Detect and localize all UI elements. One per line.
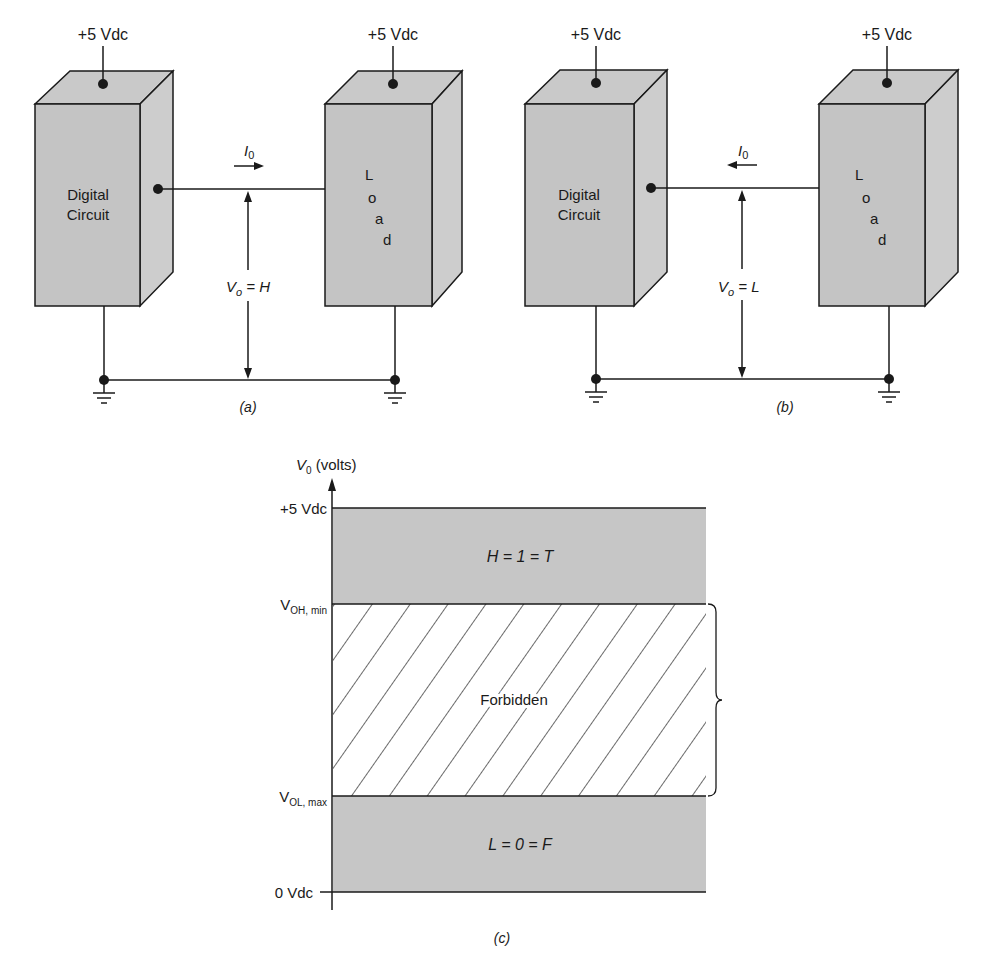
ground-symbol-icon: [93, 380, 115, 403]
supply-node-icon: [591, 78, 601, 88]
load-letter: L: [855, 166, 863, 183]
circuit-label-line2: Circuit: [67, 206, 110, 223]
panel-a-caption: (a): [239, 399, 256, 415]
circuit-label-line1: Digital: [558, 186, 600, 203]
forbidden-brace-icon: [708, 604, 722, 796]
supply-node-icon: [882, 78, 892, 88]
load-block: [325, 71, 462, 306]
ground-symbol-icon: [878, 379, 900, 402]
supply-node-icon: [388, 79, 398, 89]
axis-label: V0 (volts): [296, 456, 357, 476]
load-letter: o: [368, 189, 376, 206]
load-letter: d: [383, 231, 391, 248]
voltage-label: Vo = H: [226, 278, 270, 298]
level-top-label: +5 Vdc: [280, 500, 328, 517]
circuit-label-line2: Circuit: [558, 206, 601, 223]
panel-b-caption: (b): [776, 399, 793, 415]
panel-c-caption: (c): [494, 930, 510, 946]
circuit-label-line1: Digital: [67, 186, 109, 203]
supply-label: +5 Vdc: [571, 26, 621, 43]
ground-symbol-icon: [384, 380, 406, 403]
supply-label: +5 Vdc: [862, 26, 912, 43]
diagram-canvas: +5 Vdc +5 Vdc Digital Circuit L o a d I0…: [0, 0, 990, 966]
low-band-label: L = 0 = F: [488, 836, 553, 853]
level-vol-label: VOL, max: [279, 788, 327, 808]
ground-symbol-icon: [585, 379, 607, 402]
current-label: I0: [244, 142, 254, 161]
panel-b: [525, 46, 958, 402]
level-bottom-label: 0 Vdc: [275, 884, 314, 901]
load-letter: o: [862, 189, 870, 206]
current-arrow-left-icon: [727, 161, 757, 169]
supply-node-icon: [98, 79, 108, 89]
load-block: [819, 70, 958, 306]
voltage-label: Vo = L: [718, 278, 760, 298]
forbidden-band-label: Forbidden: [480, 691, 548, 708]
high-band-label: H = 1 = T: [487, 548, 555, 565]
supply-label: +5 Vdc: [78, 26, 128, 43]
load-letter: L: [365, 166, 373, 183]
current-arrow-right-icon: [234, 162, 264, 170]
load-letter: a: [375, 210, 384, 227]
current-label: I0: [738, 142, 748, 161]
panel-a: [35, 46, 462, 403]
supply-label: +5 Vdc: [368, 26, 418, 43]
level-voh-label: VOH, min: [280, 596, 327, 616]
load-letter: d: [878, 231, 886, 248]
load-letter: a: [870, 210, 879, 227]
